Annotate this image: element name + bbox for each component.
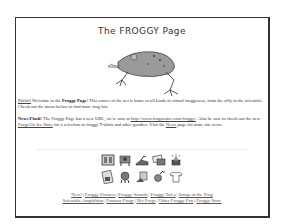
tales-icon[interactable] (135, 153, 149, 167)
icon-row-1 (16, 153, 268, 169)
nav-other-froggy-fun[interactable]: Other Froggy Fun (159, 198, 194, 203)
page-frame: The FROGGY Page Ribbit Ribbit! Welcome t… (15, 17, 270, 218)
nav-famous-frogs[interactable]: Famous Frogs (106, 198, 133, 203)
nav-separator: | (149, 192, 150, 197)
news-text: page for more site news. (176, 122, 222, 127)
store-tshirt-icon[interactable] (169, 170, 183, 184)
intro-text: Welcome to the (31, 98, 62, 103)
news-text: for a selection of froggy T-shirts and o… (53, 122, 166, 127)
other-fun-icon[interactable] (135, 170, 149, 184)
nav-froggy-tales[interactable]: Froggy Tales (151, 192, 176, 197)
net-frogs-icon[interactable] (118, 170, 132, 184)
sounds-icon[interactable] (118, 153, 132, 167)
froggy-page-bold: Froggy Page (62, 98, 87, 103)
nav-net-frogs[interactable]: Net Frogs (137, 198, 156, 203)
news-icon[interactable] (152, 170, 166, 184)
scientific-icon[interactable] (169, 153, 183, 167)
icon-row-2 (16, 170, 268, 186)
news-paragraph: News Flash! The Froggy Page has a new UR… (18, 116, 264, 127)
frogs-on-ice-store-link[interactable]: Frogs On Ice Store (18, 122, 53, 127)
page-title: The FROGGY Page (16, 26, 268, 36)
nav-line-2: Scientific Amphibian|Famous Frogs|Net Fr… (16, 198, 268, 204)
nav-separator: | (157, 198, 158, 203)
news-page-link[interactable]: News (166, 122, 176, 127)
pictures-icon[interactable] (101, 153, 115, 167)
songs-icon[interactable] (152, 153, 166, 167)
nav-new[interactable]: New! (71, 192, 82, 197)
frog-caption: Ribbit (108, 64, 120, 69)
menu-icons (16, 153, 268, 187)
nav-froggy-store[interactable]: Froggy Store (196, 198, 221, 203)
news-flash-label: News Flash! (18, 116, 42, 121)
news-text: . Also be sure to check out the new (196, 116, 260, 121)
nav-separator: | (135, 198, 136, 203)
nav-scientific-amphibian[interactable]: Scientific Amphibian (62, 198, 103, 203)
intro-paragraph: Ribbit! Welcome to the Froggy Page! This… (18, 98, 264, 109)
news-text: The Froggy Page has a new URL, we're now… (42, 116, 131, 121)
nav-froggy-sounds[interactable]: Froggy Sounds (118, 192, 147, 197)
site-nav: New!|Froggy Pictures|Froggy Sounds|Frogg… (16, 192, 268, 204)
nav-froggy-pictures[interactable]: Froggy Pictures (85, 192, 116, 197)
divider (36, 149, 248, 150)
nav-separator: | (83, 192, 84, 197)
new-url-link[interactable]: http://www.frogsonice.com/froggy/ (131, 116, 196, 121)
nav-songs-of-the-frog[interactable]: Songs of the Frog (179, 192, 213, 197)
famous-frogs-icon[interactable] (101, 170, 115, 184)
ribbit-link[interactable]: Ribbit! (18, 98, 31, 103)
nav-separator: | (177, 192, 178, 197)
